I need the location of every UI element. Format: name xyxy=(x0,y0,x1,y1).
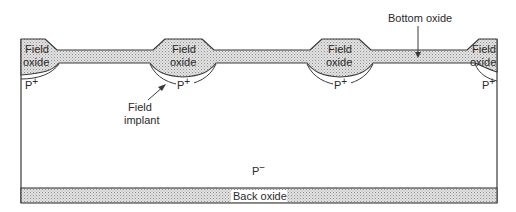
substrate-body xyxy=(21,39,497,203)
svg-text:Field: Field xyxy=(128,101,152,113)
field-oxide-label-1: Field oxide xyxy=(23,43,49,68)
svg-text:Field: Field xyxy=(472,43,496,55)
svg-text:oxide: oxide xyxy=(170,56,196,68)
p-plus-label-2: P+ xyxy=(176,76,194,91)
svg-text:P+: P+ xyxy=(25,76,38,91)
back-oxide-label: Back oxide xyxy=(233,190,287,202)
svg-text:oxide: oxide xyxy=(23,56,49,68)
field-oxide-label-4: Field oxide xyxy=(470,43,496,68)
svg-text:Field: Field xyxy=(172,43,196,55)
svg-text:oxide: oxide xyxy=(326,56,352,68)
svg-text:Field: Field xyxy=(25,43,49,55)
top-oxide-layer xyxy=(21,39,497,77)
p-plus-label-3: P+ xyxy=(333,76,351,91)
mos-cross-section-diagram: Field oxide Field oxide Field oxide Fiel… xyxy=(0,0,516,212)
substrate-label: P− xyxy=(252,162,265,177)
field-oxide-label-3: Field oxide xyxy=(326,43,352,68)
svg-text:oxide: oxide xyxy=(470,56,496,68)
field-oxide-label-2: Field oxide xyxy=(170,43,196,68)
svg-text:Field: Field xyxy=(328,43,352,55)
p-plus-label-4: P+ xyxy=(482,76,495,91)
field-implant-regions xyxy=(21,64,497,85)
svg-text:P+: P+ xyxy=(482,76,495,91)
svg-text:implant: implant xyxy=(124,114,159,126)
svg-text:Bottom oxide: Bottom oxide xyxy=(388,12,452,24)
field-implant-callout: Field implant xyxy=(124,84,166,126)
p-plus-label-1: P+ xyxy=(25,76,38,91)
